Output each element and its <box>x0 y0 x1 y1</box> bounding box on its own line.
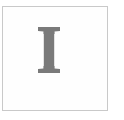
glyph-stem <box>44 31 54 69</box>
tile-plate: I <box>3 7 107 110</box>
capital-letter-i-icon <box>3 7 109 112</box>
glyph-bottom-serif <box>38 66 60 73</box>
glyph-container: I <box>3 7 109 112</box>
tile-frame: I <box>2 6 108 111</box>
glyph-paths <box>38 27 60 73</box>
letter-tile-canvas: I <box>0 0 124 120</box>
